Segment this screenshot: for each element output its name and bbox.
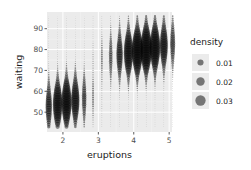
density-point — [119, 83, 121, 85]
density-point — [92, 113, 93, 114]
density-point — [163, 81, 164, 82]
density-point — [164, 88, 165, 89]
y-tick-label: 90 — [33, 24, 43, 33]
density-point — [118, 31, 121, 34]
density-point — [102, 27, 103, 28]
x-axis: 2345 — [61, 132, 172, 145]
density-point — [154, 78, 156, 80]
density-point — [119, 97, 120, 98]
density-point — [48, 65, 49, 66]
density-point — [93, 27, 94, 28]
density-point — [154, 86, 155, 87]
legend-label: 0.03 — [216, 97, 233, 106]
density-point — [102, 124, 103, 125]
density-point — [48, 68, 49, 69]
density-point — [84, 54, 85, 55]
density-point — [92, 103, 94, 105]
density-point — [110, 102, 111, 103]
density-point — [164, 95, 165, 96]
density-point — [75, 61, 76, 62]
density-point — [48, 72, 49, 73]
density-point — [92, 94, 94, 96]
density-point — [110, 95, 111, 96]
density-point — [110, 27, 111, 28]
density-point — [137, 95, 138, 96]
density-point — [110, 79, 112, 81]
density-point — [83, 74, 85, 76]
density-point — [49, 59, 50, 60]
density-point — [154, 17, 157, 20]
density-point — [83, 76, 85, 78]
density-point — [84, 52, 85, 53]
density-point — [102, 117, 103, 118]
density-point — [146, 99, 147, 100]
density-point — [84, 63, 85, 64]
density-point — [146, 90, 147, 91]
density-point — [75, 63, 76, 64]
x-tick-label: 5 — [167, 136, 172, 145]
density-point — [92, 101, 94, 103]
density-point — [110, 20, 111, 21]
density-point — [163, 15, 165, 17]
density-point — [57, 63, 58, 64]
density-point — [48, 61, 49, 62]
density-point — [101, 86, 102, 87]
density-point — [110, 25, 111, 26]
legend-dot — [197, 59, 203, 65]
density-point — [75, 65, 76, 66]
density-point — [93, 120, 94, 121]
density-point — [155, 90, 156, 91]
density-point — [101, 49, 103, 51]
density-point — [66, 59, 67, 60]
density-point — [101, 81, 102, 82]
density-point — [136, 85, 138, 87]
density-point — [92, 117, 93, 118]
density-point — [163, 74, 165, 76]
density-point — [128, 99, 129, 100]
density-point — [83, 124, 85, 126]
density-point — [93, 59, 94, 60]
density-point — [101, 67, 103, 69]
density-point — [66, 63, 67, 64]
density-point — [154, 83, 155, 84]
density-point — [109, 40, 112, 43]
density-point — [84, 56, 85, 57]
density-point — [145, 81, 147, 83]
density-point — [128, 102, 129, 103]
density-point — [93, 122, 94, 123]
density-point — [118, 29, 120, 31]
density-point — [102, 25, 103, 26]
density-point — [83, 121, 85, 123]
density-point — [93, 50, 94, 51]
density-point — [172, 72, 173, 73]
density-point — [110, 31, 112, 33]
density-point — [119, 18, 120, 19]
density-point — [57, 67, 58, 68]
density-point — [137, 88, 138, 89]
density-point — [93, 36, 94, 37]
density-point — [83, 72, 85, 74]
legend-label: 0.02 — [216, 78, 233, 87]
density-point — [172, 88, 173, 89]
density-point — [101, 63, 103, 65]
density-point — [172, 17, 174, 19]
density-point — [128, 92, 129, 93]
density-point — [101, 76, 102, 77]
density-point — [172, 65, 174, 67]
density-point-chart: 5060708090 2345 eruptions waiting densit… — [0, 0, 251, 170]
density-point — [101, 54, 103, 56]
density-point — [93, 54, 94, 55]
density-point — [92, 115, 93, 116]
density-point — [128, 16, 129, 17]
density-point — [93, 52, 94, 53]
density-point — [66, 67, 68, 69]
density-point — [92, 90, 94, 92]
density-point — [92, 110, 94, 112]
density-point — [163, 79, 164, 80]
legend-dot — [195, 95, 205, 105]
density-point — [101, 74, 102, 75]
density-point — [137, 99, 138, 100]
density-point — [101, 79, 102, 80]
density-point — [155, 88, 156, 89]
density-point — [119, 99, 120, 100]
